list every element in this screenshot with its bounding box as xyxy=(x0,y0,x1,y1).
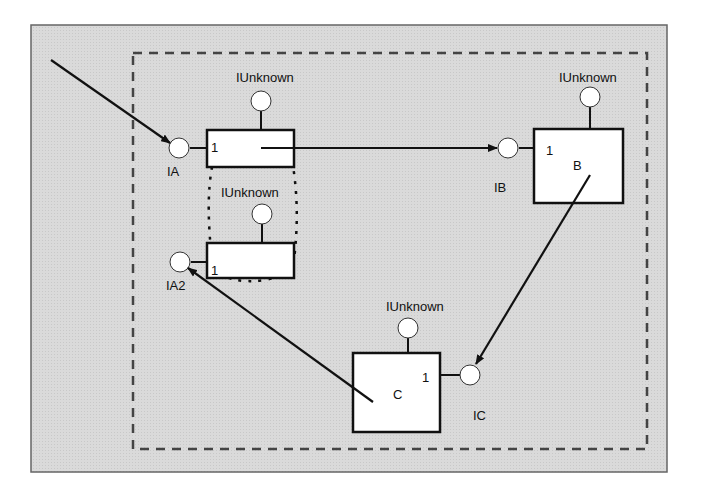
component-name-b: B xyxy=(573,158,582,173)
diagram-background xyxy=(31,25,667,472)
iunknown-port-a1[interactable] xyxy=(251,91,271,111)
iunknown-port-a2[interactable] xyxy=(252,204,272,224)
iunknown-label-a1: IUnknown xyxy=(236,70,294,85)
count-label-a1: 1 xyxy=(211,140,218,155)
ic-port[interactable] xyxy=(460,365,480,385)
ib-port[interactable] xyxy=(498,138,518,158)
ia2-label: IA2 xyxy=(166,278,186,293)
ia-label: IA xyxy=(167,164,180,179)
ia-port[interactable] xyxy=(169,138,189,158)
ia2-port[interactable] xyxy=(170,252,190,272)
ic-label: IC xyxy=(473,408,486,423)
com-aggregation-diagram: IUnknown 1 IA IUnknown 1 IA2 IUnknown 1 … xyxy=(0,0,704,493)
component-name-c: C xyxy=(393,387,402,402)
ib-label: IB xyxy=(494,180,506,195)
iunknown-label-a2: IUnknown xyxy=(221,185,279,200)
iunknown-label-c: IUnknown xyxy=(386,299,444,314)
count-label-b: 1 xyxy=(546,143,553,158)
count-label-c: 1 xyxy=(422,370,429,385)
count-label-a2: 1 xyxy=(211,263,218,278)
iunknown-port-b[interactable] xyxy=(580,87,600,107)
iunknown-port-c[interactable] xyxy=(398,318,418,338)
iunknown-label-b: IUnknown xyxy=(559,70,617,85)
